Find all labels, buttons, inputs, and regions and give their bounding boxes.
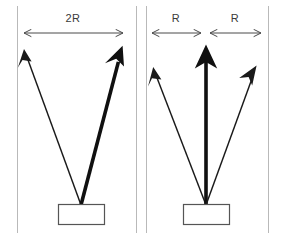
dimension-label-r-left: R xyxy=(172,12,180,24)
dimension-label-2r: 2R xyxy=(66,12,81,24)
beam-spread-figure: 2R R R xyxy=(0,0,286,239)
dimension-label-r-right: R xyxy=(231,12,239,24)
panel-dividers xyxy=(17,6,268,233)
right-ray xyxy=(206,66,257,206)
source-box xyxy=(184,205,230,225)
left-ray xyxy=(18,49,81,205)
right-ray xyxy=(81,46,124,205)
single-wide-beam-panel: 2R xyxy=(18,12,124,225)
left-ray xyxy=(148,67,206,205)
figure-canvas: 2R R R xyxy=(0,0,286,239)
source-box xyxy=(59,205,105,225)
split-beam-panel: R R xyxy=(148,12,261,225)
center-ray xyxy=(195,45,217,206)
